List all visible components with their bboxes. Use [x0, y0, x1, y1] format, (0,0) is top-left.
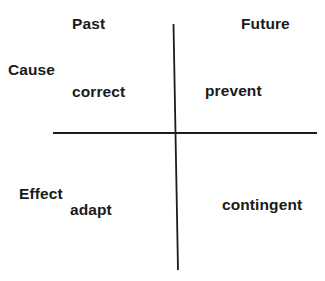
- quadrant-diagram: Past Future Cause Effect correct prevent…: [0, 0, 325, 281]
- vertical-axis-line: [0, 0, 325, 281]
